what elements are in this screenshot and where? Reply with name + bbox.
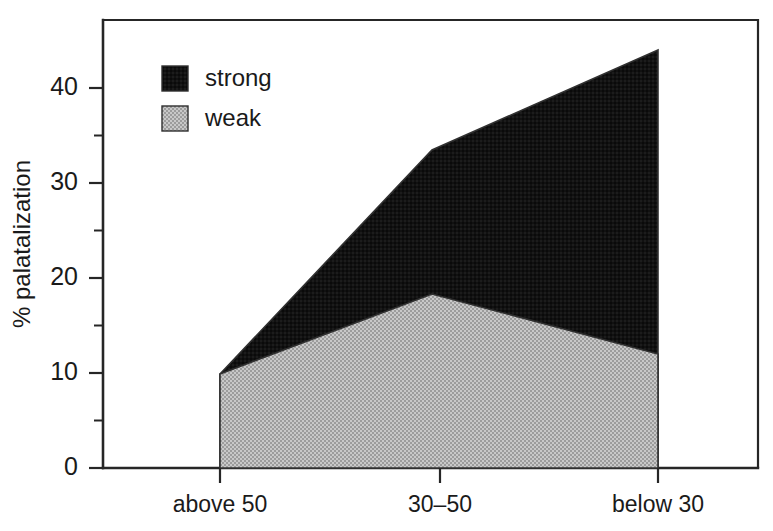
y-tick-label-0: 0 — [64, 452, 78, 480]
legend-swatch-strong-icon — [162, 66, 188, 91]
chart-figure: 0 10 20 30 40 % palatalization above 50 … — [0, 0, 773, 531]
x-tick-label-above-50: above 50 — [173, 491, 268, 517]
x-tick-label-30-50: 30–50 — [408, 491, 472, 517]
y-tick-label-10: 10 — [50, 357, 78, 385]
x-tick-label-below-30: below 30 — [612, 491, 704, 517]
legend-item-strong: strong — [162, 64, 272, 91]
legend-label-weak: weak — [204, 104, 262, 131]
legend-label-strong: strong — [205, 64, 272, 91]
x-axis-tick-labels: above 50 30–50 below 30 — [173, 491, 704, 517]
chart-svg: 0 10 20 30 40 % palatalization above 50 … — [0, 0, 773, 531]
y-tick-label-20: 20 — [50, 262, 78, 290]
y-tick-label-30: 30 — [50, 167, 78, 195]
y-axis-title: % palatalization — [8, 160, 35, 328]
y-tick-label-40: 40 — [50, 72, 78, 100]
legend-item-weak: weak — [162, 104, 262, 131]
legend-swatch-weak-icon — [162, 106, 188, 131]
